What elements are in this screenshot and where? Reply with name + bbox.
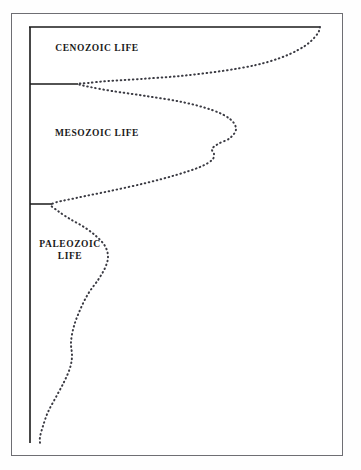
- era-label-mesozoic: MESOZOIC LIFE: [36, 127, 158, 139]
- diversity-outline-curve: [40, 27, 320, 443]
- era-label-cenozoic: CENOZOIC LIFE: [36, 42, 158, 54]
- spindle-plot: [0, 0, 361, 470]
- geologic-spindle-figure: CENOZOIC LIFE MESOZOIC LIFE PALEOZOIC LI…: [0, 0, 361, 470]
- era-label-paleozoic: PALEOZOIC LIFE: [18, 238, 122, 262]
